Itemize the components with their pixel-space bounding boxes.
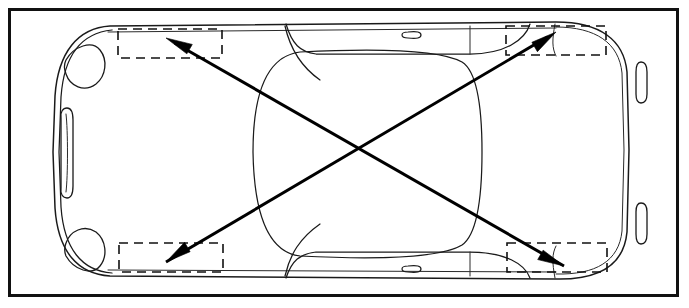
body-measurement-diagram bbox=[0, 0, 689, 308]
figure-root: Vehicle body top view with diagonal meas… bbox=[0, 0, 689, 308]
